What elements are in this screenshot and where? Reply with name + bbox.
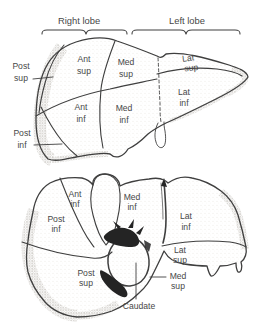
label-text: Ant bbox=[75, 102, 89, 112]
label-text: inf bbox=[70, 199, 80, 209]
label-text: inf bbox=[76, 114, 86, 124]
right-lobe-label: Right lobe bbox=[58, 15, 100, 26]
label-text: Post bbox=[13, 128, 31, 138]
inferior-view: Ant inf Med inf Post inf Lat inf Post su… bbox=[22, 174, 246, 317]
liver-segments-svg: Right lobe Left lobe Post sup bbox=[0, 0, 254, 336]
label-text: inf bbox=[119, 115, 129, 125]
right-lobe-brace bbox=[42, 30, 127, 34]
label-text: sup bbox=[119, 69, 133, 79]
label-text: Lat bbox=[174, 245, 187, 255]
left-lobe-brace bbox=[132, 30, 240, 34]
label-text: Post bbox=[12, 61, 30, 71]
label-text: Post bbox=[77, 268, 95, 278]
label-text: Lat bbox=[178, 87, 191, 97]
label-text: sup bbox=[79, 278, 93, 288]
label-anterior-lat-sup: Lat sup bbox=[181, 52, 198, 74]
label-text: sup bbox=[77, 66, 91, 76]
label-text: Post bbox=[47, 214, 65, 224]
label-text: sup bbox=[171, 281, 185, 291]
anterior-view: Post sup Ant sup Med sup Lat sup Ant inf… bbox=[12, 38, 248, 160]
label-text: sup bbox=[173, 255, 187, 265]
left-lobe-label: Left lobe bbox=[169, 15, 205, 26]
lobe-header: Right lobe Left lobe bbox=[42, 15, 240, 34]
label-anterior-post-inf: Post inf bbox=[13, 128, 31, 150]
label-text: inf bbox=[17, 140, 27, 150]
label-text: inf bbox=[127, 202, 137, 212]
label-text: Med bbox=[118, 57, 135, 67]
label-inferior-post-sup: Post sup bbox=[77, 268, 95, 288]
label-text: Caudate bbox=[123, 301, 156, 311]
label-text: Med bbox=[116, 103, 133, 113]
label-inferior-med-sup: Med sup bbox=[170, 271, 187, 291]
label-text: Ant bbox=[69, 189, 83, 199]
label-text: inf bbox=[51, 224, 61, 234]
liver-segments-figure: Right lobe Left lobe Post sup bbox=[0, 0, 254, 336]
label-text: sup bbox=[14, 73, 28, 83]
label-text: Lat bbox=[180, 211, 193, 221]
label-inferior-caudate: Caudate bbox=[123, 301, 156, 311]
label-text: Ant bbox=[78, 54, 92, 64]
label-text: inf bbox=[179, 98, 189, 108]
label-text: Med bbox=[124, 192, 141, 202]
label-anterior-post-sup: Post sup bbox=[12, 61, 30, 83]
label-text: sup bbox=[184, 62, 199, 74]
label-inferior-lat-sup: Lat sup bbox=[173, 245, 187, 265]
label-text: inf bbox=[181, 222, 191, 232]
label-text: Med bbox=[170, 271, 187, 281]
